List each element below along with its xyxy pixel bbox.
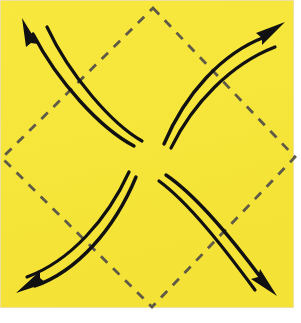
figure-root (0, 0, 301, 323)
pinwheel-diagram (0, 0, 301, 323)
